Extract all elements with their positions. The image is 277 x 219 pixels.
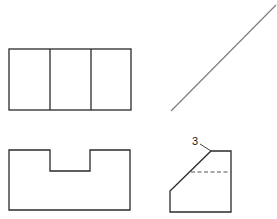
orthographic-drawing: 3	[0, 0, 277, 219]
annotation-label-3: 3	[192, 135, 198, 147]
side-view: 3	[170, 135, 231, 212]
front-view-outline	[9, 150, 130, 210]
miter-line	[171, 5, 276, 111]
front-view	[9, 150, 130, 210]
top-view-outline	[9, 49, 131, 110]
leader-line	[200, 144, 211, 151]
side-view-outline	[170, 151, 231, 212]
top-view	[9, 49, 131, 110]
